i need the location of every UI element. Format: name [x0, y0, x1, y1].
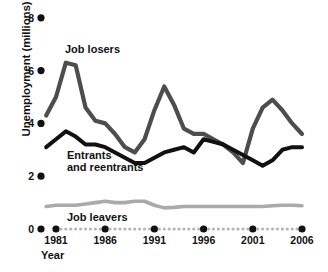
axis-minor-dot-mid-1987 — [118, 227, 121, 230]
axis-minor-dot-1993 — [172, 227, 175, 230]
axis-minor-dot-mid-1992 — [168, 227, 171, 230]
axis-major-dot-2001 — [249, 225, 256, 232]
axis-minor-dot-mid-2005 — [295, 227, 298, 230]
y-tick-label-4: 4 — [20, 117, 34, 129]
x-axis-title: Year — [41, 249, 64, 261]
series-line-job-leavers — [46, 201, 302, 208]
axis-minor-dot-2000 — [241, 227, 244, 230]
axis-minor-dot-1985 — [94, 227, 97, 230]
axis-minor-dot-mid-1990 — [148, 227, 151, 230]
axis-minor-dot-1989 — [133, 227, 136, 230]
axis-minor-dot-mid-1991 — [158, 227, 161, 230]
axis-minor-dot-2003 — [271, 227, 274, 230]
axis-minor-dot-mid-1989 — [138, 227, 141, 230]
x-tick-label-2006: 2006 — [282, 234, 322, 246]
series-label-entrants-and-reentrants: Entrants and reentrants — [67, 150, 143, 173]
axis-major-dot-1991 — [151, 225, 158, 232]
x-tick-label-1996: 1996 — [184, 234, 224, 246]
y-tick-label-0: 0 — [20, 223, 34, 235]
axis-minor-dot-mid-1999 — [236, 227, 239, 230]
axis-minor-dot-2004 — [281, 227, 284, 230]
axis-minor-dot-mid-2000 — [246, 227, 249, 230]
axis-minor-dot-mid-2002 — [266, 227, 269, 230]
axis-minor-dot-2002 — [261, 227, 264, 230]
axis-minor-dot-1995 — [192, 227, 195, 230]
series-label-entrants-line1: Entrants — [67, 149, 112, 161]
axis-minor-dot-1994 — [182, 227, 185, 230]
axis-minor-dot-mid-2004 — [286, 227, 289, 230]
axis-major-dot-1986 — [102, 225, 109, 232]
axis-minor-dot-mid-1981 — [59, 227, 62, 230]
axis-minor-dot-1984 — [84, 227, 87, 230]
series-paths — [46, 63, 302, 208]
series-label-job-leavers: Job leavers — [67, 212, 128, 224]
series-label-job-losers: Job losers — [65, 44, 120, 56]
plot-area — [0, 0, 328, 272]
axis-minor-dot-mid-1983 — [79, 227, 82, 230]
axis-minor-dot-mid-1995 — [197, 227, 200, 230]
y-axis-dot-8 — [37, 14, 44, 21]
axis-minor-dot-mid-2001 — [256, 227, 259, 230]
axis-minor-dot-mid-1996 — [207, 227, 210, 230]
axis-minor-dot-mid-1984 — [89, 227, 92, 230]
axis-minor-dot-1997 — [212, 227, 215, 230]
axis-major-dot-1981 — [52, 225, 59, 232]
axis-origin-dot — [37, 225, 44, 232]
series-label-entrants-line2: and reentrants — [67, 162, 143, 174]
axis-minor-dot-mid-1993 — [177, 227, 180, 230]
axis-minor-dot-1999 — [232, 227, 235, 230]
axis-minor-dot-mid-1985 — [99, 227, 102, 230]
axis-minor-dot-1992 — [163, 227, 166, 230]
y-axis-dot-4 — [37, 120, 44, 127]
axis-minor-dot-1998 — [222, 227, 225, 230]
axis-minor-dot-1988 — [123, 227, 126, 230]
axis-minor-dot-1982 — [64, 227, 67, 230]
y-axis-dot-2 — [37, 173, 44, 180]
axis-minor-dot-mid-1998 — [227, 227, 230, 230]
y-axis-dot-6 — [37, 67, 44, 74]
axis-minor-dot-mid-1988 — [128, 227, 131, 230]
y-tick-label-2: 2 — [20, 170, 34, 182]
x-tick-label-1981: 1981 — [36, 234, 76, 246]
axis-minor-dot-1983 — [74, 227, 77, 230]
axis-minor-dot-mid-1986 — [109, 227, 112, 230]
y-tick-label-6: 6 — [20, 65, 34, 77]
x-tick-label-1986: 1986 — [85, 234, 125, 246]
x-tick-label-1991: 1991 — [134, 234, 174, 246]
axis-minor-dot-mid-2003 — [276, 227, 279, 230]
axis-minor-dot-mid-1994 — [187, 227, 190, 230]
axis-major-dot-2006 — [298, 225, 305, 232]
axis-minor-dot-1990 — [143, 227, 146, 230]
axis-major-dot-1996 — [200, 225, 207, 232]
axis-minor-dot-1987 — [113, 227, 116, 230]
axis-minor-dot-mid-1982 — [69, 227, 72, 230]
axis-minor-dot-2005 — [291, 227, 294, 230]
y-tick-label-8: 8 — [20, 12, 34, 24]
axis-minor-dot-mid-1997 — [217, 227, 220, 230]
unemployment-line-chart: Unemployment (millions) 0 2 4 6 8 1981 1… — [0, 0, 328, 272]
x-tick-label-2001: 2001 — [233, 234, 273, 246]
